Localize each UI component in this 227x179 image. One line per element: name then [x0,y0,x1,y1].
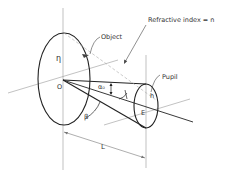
dashed-ray [64,33,156,100]
object-ellipse [38,33,90,125]
alpha-arrowhead-top [110,83,113,86]
dimension-l-arrow-right [141,156,145,159]
label-beta: β [84,113,88,121]
refractive-leader [125,25,146,62]
label-alpha0: α₀ [98,83,105,91]
label-refractive-index: Refractive index = n [148,16,215,24]
label-e: E [141,109,145,117]
dimension-l-arrow-left [64,132,68,135]
object-leader-arrowhead [82,54,89,58]
label-pupil: Pupil [162,73,178,81]
optical-diagram: Refractive index = n Object Pupil η O α₀… [0,0,227,179]
pupil-leader [151,75,160,92]
optical-axis [63,80,193,122]
label-origin: O [57,83,62,91]
horizontal-axis-e [104,99,190,125]
label-eta: η [56,54,61,63]
label-object: Object [101,33,123,41]
label-l: L [101,143,105,151]
refractive-leader-arrowhead [124,60,127,65]
alpha-arrowhead-bottom [110,92,113,95]
object-leader [90,37,100,54]
label-h: h [150,92,154,100]
